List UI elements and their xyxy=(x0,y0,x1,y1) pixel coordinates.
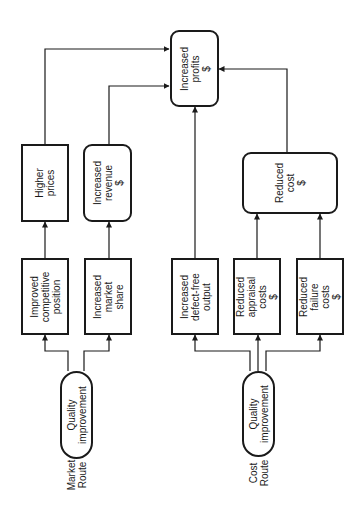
reduced-failure-costs-node: Reduced failure costs $ xyxy=(296,258,344,335)
improved-competitive-position-node: Improved competitive position xyxy=(21,258,69,335)
increased-market-share-label: Increased market share xyxy=(92,275,125,319)
increased-revenue-node: Increased revenue $ xyxy=(83,144,132,222)
quality-improvement-cost-label: Quality improvement xyxy=(248,385,270,443)
increased-defect-free-output-node: Increased defect-free output xyxy=(171,258,219,335)
cost-route-label: Cost Route xyxy=(248,460,270,487)
market-route-label: Market Route xyxy=(66,460,88,491)
increased-market-share-node: Increased market share xyxy=(84,258,132,335)
reduced-appraisal-costs-node: Reduced appraisal costs $ xyxy=(233,258,281,335)
increased-revenue-label: Increased revenue $ xyxy=(91,161,124,205)
quality-improvement-market-node: Quality improvement xyxy=(60,371,93,459)
improved-competitive-position-label: Improved competitive position xyxy=(29,271,62,322)
reduced-cost-label: Reduced cost $ xyxy=(274,163,307,203)
increased-profits-label: Increased profits $ xyxy=(178,47,211,91)
reduced-appraisal-costs-label: Reduced appraisal costs $ xyxy=(235,276,279,317)
higher-prices-node: Higher prices xyxy=(21,144,69,222)
higher-prices-label: Higher prices xyxy=(34,168,56,197)
increased-profits-node: Increased profits $ xyxy=(170,30,219,107)
quality-improvement-cost-node: Quality improvement xyxy=(242,371,275,457)
increased-defect-free-output-label: Increased defect-free output xyxy=(179,273,212,321)
quality-improvement-market-label: Quality improvement xyxy=(66,386,88,444)
reduced-cost-node: Reduced cost $ xyxy=(242,152,338,214)
reduced-failure-costs-label: Reduced failure costs $ xyxy=(298,276,342,316)
